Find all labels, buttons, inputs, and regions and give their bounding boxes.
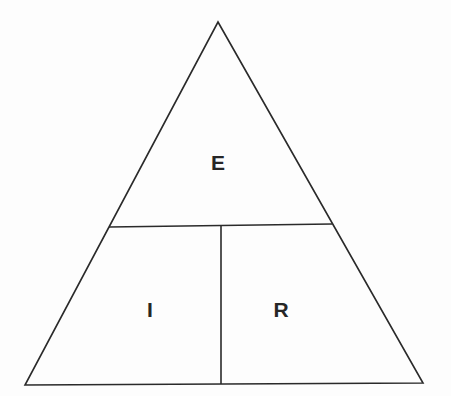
region-label-bottom-right: R [273, 299, 288, 320]
triangle-diagram-canvas [0, 0, 451, 396]
triangle-outline [25, 22, 423, 385]
triangle-diagram: E I R [0, 0, 451, 396]
region-label-top: E [211, 152, 225, 173]
region-label-bottom-left: I [147, 299, 153, 320]
